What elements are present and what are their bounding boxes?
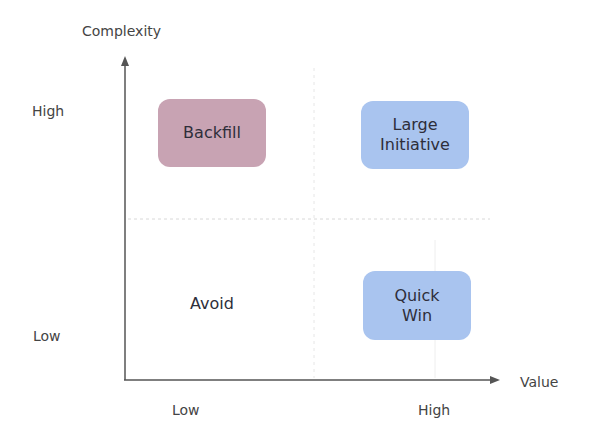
quadrant-backfill: Backfill [158,99,266,167]
quadrant-backfill-label: Backfill [183,123,241,143]
x-tick-low: Low [172,402,200,418]
y-axis-arrow-icon [121,56,129,66]
quadrant-quick-win-line2: Win [402,306,432,326]
x-axis-arrow-icon [490,376,500,384]
quadrant-large-initiative: Large Initiative [361,101,469,169]
quadrant-avoid: Avoid [158,270,266,338]
quadrant-large-initiative-line1: Large [392,115,437,135]
y-tick-high: High [32,103,64,119]
quadrant-avoid-label: Avoid [190,294,234,314]
x-tick-high: High [418,402,450,418]
quadrant-quick-win: Quick Win [363,271,471,340]
y-axis-title: Complexity [82,23,161,39]
quadrant-quick-win-line1: Quick [394,286,439,306]
y-tick-low: Low [33,328,61,344]
x-axis-title: Value [520,374,558,390]
quadrant-large-initiative-line2: Initiative [380,135,450,155]
axes-layer [0,0,595,445]
